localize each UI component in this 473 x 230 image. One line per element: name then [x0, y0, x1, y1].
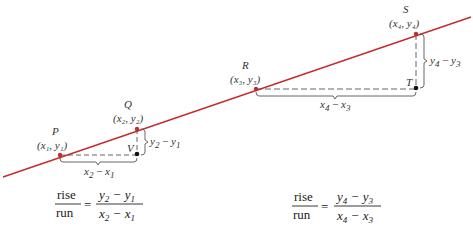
formula-1-rise: rise — [57, 187, 76, 202]
point-r-coord: (x₃, y₃) — [230, 73, 261, 86]
formula-1-equals: = — [84, 197, 91, 212]
slope-diagram: P (x₁, y₁) Q (x₂, y₂) R (x₃, y₃) S (x₄, … — [0, 0, 473, 230]
point-r-marker — [254, 87, 258, 91]
point-q-coord: (x₂, y₂) — [113, 112, 144, 125]
formula-1-run: run — [56, 205, 74, 220]
rise-bracket-2 — [420, 34, 427, 88]
rise-label-1: y2 − y1 — [149, 135, 181, 150]
formula-1-denominator: x2−x1 — [98, 206, 135, 223]
point-r-name: R — [241, 59, 249, 71]
formula-2-run: run — [293, 207, 311, 222]
slope-formula-2: rise run = y4−y3 x4−x3 — [292, 189, 381, 225]
point-q-name: Q — [124, 98, 132, 110]
formula-2-rise: rise — [294, 189, 313, 204]
point-p-coord: (x₁, y₁) — [37, 139, 68, 152]
formula-1-numerator: y2−y1 — [97, 187, 135, 204]
point-t-marker — [414, 86, 419, 91]
point-s-marker — [414, 32, 418, 36]
formula-2-denominator: x4−x3 — [336, 208, 373, 225]
point-q-marker — [135, 127, 139, 131]
rise-label-2: y4 − y3 — [429, 54, 461, 69]
point-p-name: P — [51, 125, 59, 137]
point-p-marker — [58, 153, 62, 157]
run-bracket-1 — [60, 158, 137, 165]
point-s-coord: (x₄, y₄) — [389, 17, 420, 30]
point-v-marker — [135, 152, 140, 157]
slope-formula-1: rise run = y2−y1 x2−x1 — [55, 187, 143, 223]
formula-2-equals: = — [321, 199, 328, 214]
rise-bracket-1 — [141, 129, 148, 155]
point-v-name: V — [127, 142, 135, 154]
run-label-2: x4 − x3 — [319, 98, 351, 113]
secant-line — [3, 17, 471, 177]
run-label-1: x2 − x1 — [83, 165, 115, 180]
point-s-name: S — [403, 3, 409, 15]
formula-2-numerator: y4−y3 — [335, 189, 373, 206]
point-t-name: T — [406, 76, 413, 88]
